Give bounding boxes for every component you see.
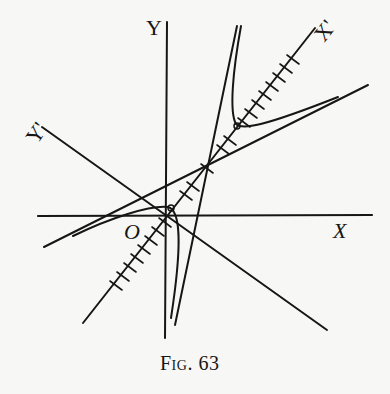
x-axis-label: X — [333, 220, 346, 242]
y-prime-axis-line — [42, 127, 327, 330]
x-axis-line — [38, 215, 372, 216]
x-prime-axis-line — [83, 28, 315, 323]
y-axis-label: Y — [146, 17, 162, 39]
figure-caption: Fig. 63 — [160, 353, 219, 373]
asymptote-steep — [175, 26, 237, 325]
asymptote-shallow — [44, 85, 368, 247]
hyperbola-diagram — [0, 0, 390, 394]
figure-63: Y X O X' Y' Fig. 63 — [0, 0, 390, 394]
origin-label: O — [124, 221, 140, 243]
y-axis-line — [165, 22, 167, 338]
x-prime-ticks — [110, 55, 299, 290]
